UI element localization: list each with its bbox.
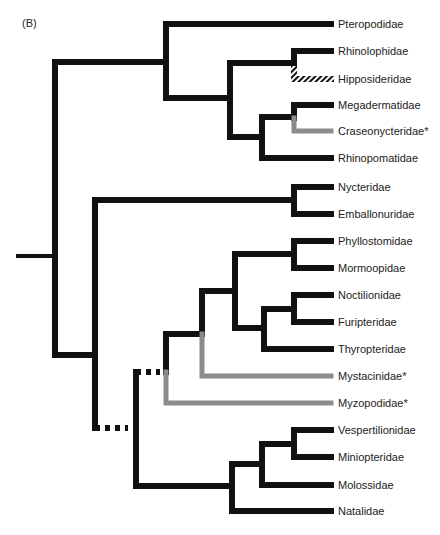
leaf-label: Hipposideridae [338,73,411,85]
hatched-branch [294,63,331,79]
tree-branches [18,24,331,511]
leaf-label: Rhinolophidae [338,45,408,57]
leaf-label: Pteropodidae [338,18,403,30]
leaf-label: Thyropteridae [338,343,406,355]
leaf-label: Craseonycteridae* [338,125,429,137]
leaf-label: Phyllostomidae [338,235,413,247]
leaf-label: Vespertilionidae [338,424,416,436]
leaf-label: Furipteridae [338,316,397,328]
leaf-label: Noctilionidae [338,289,401,301]
leaf-label: Myzopodidae* [338,397,408,409]
leaf-label: Megadermatidae [338,99,421,111]
leaf-label: Mormoopidae [338,262,405,274]
uncertain-branch [294,118,331,131]
leaf-label: Natalidae [338,505,384,517]
leaf-label: Miniopteridae [338,451,404,463]
leaf-label: Nycteridae [338,181,391,193]
leaf-label: Mystacinidae* [338,370,406,382]
leaf-label: Rhinopomatidae [338,152,418,164]
leaf-label: Emballonuridae [338,208,414,220]
leaf-label: Molossidae [338,479,394,491]
